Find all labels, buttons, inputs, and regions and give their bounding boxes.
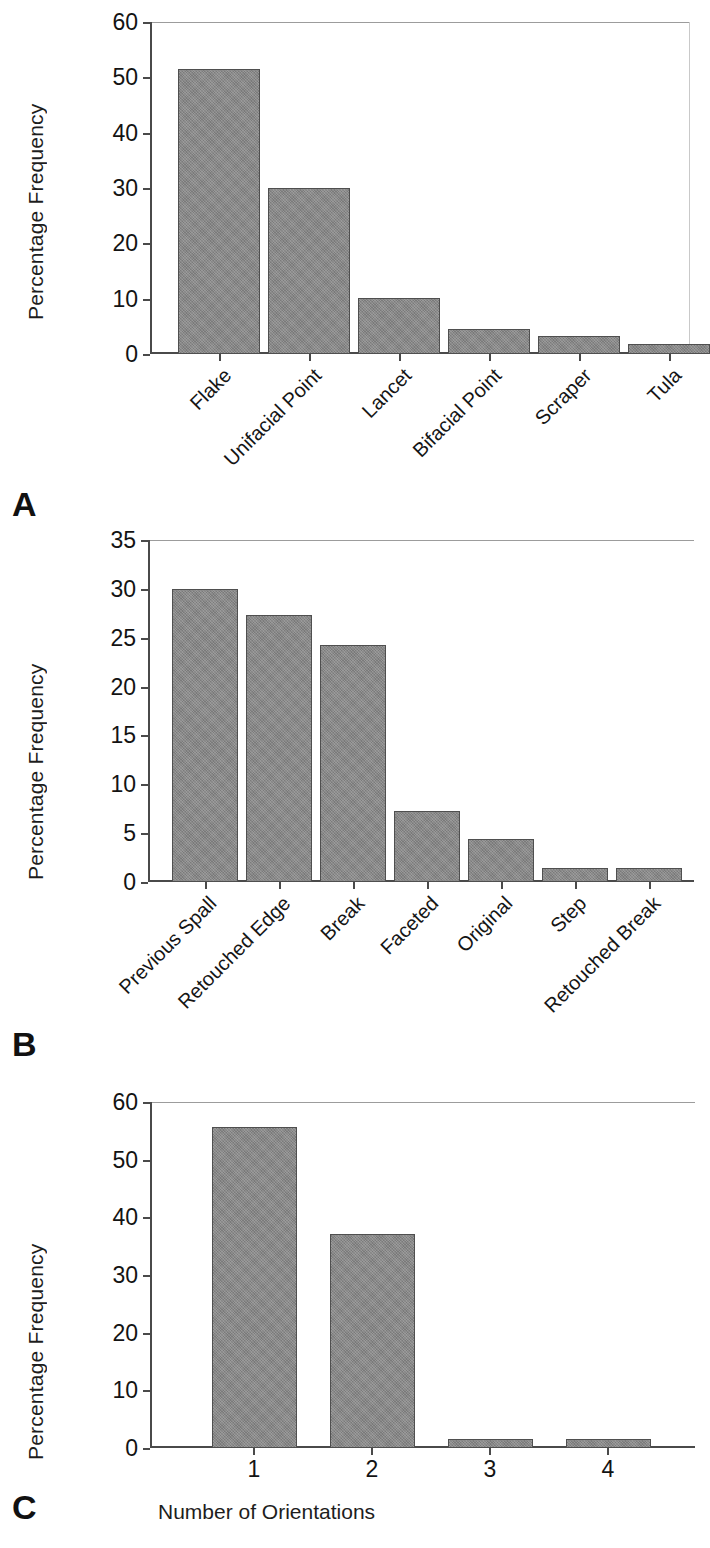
y-tick-label-a-30: 30 (112, 175, 138, 202)
y-tick-label-c-30: 30 (112, 1262, 138, 1289)
bar-a-2 (358, 298, 440, 354)
bar-b-2 (320, 645, 386, 882)
x-tick-b-0 (205, 882, 207, 889)
panel-letter-c: C (12, 1490, 37, 1524)
y-tick-b-35 (141, 540, 148, 542)
panel-a: Percentage Frequency 60 50 40 30 20 10 0 (0, 0, 701, 490)
x-tick-b-6 (649, 882, 651, 889)
bar-b-6 (616, 868, 682, 882)
y-tick-label-b-35: 35 (110, 527, 136, 554)
x-category-label-c-2: 3 (484, 1456, 497, 1483)
panel-letter-b: B (12, 1027, 37, 1061)
panel-b: Percentage Frequency 35 30 25 20 15 10 5… (0, 530, 701, 1060)
y-tick-label-c-0: 0 (125, 1435, 138, 1462)
y-tick-c-0 (143, 1448, 150, 1450)
x-tick-a-3 (489, 354, 491, 361)
bar-c-2 (448, 1439, 533, 1448)
y-tick-a-0 (143, 354, 150, 356)
y-tick-label-a-10: 10 (112, 285, 138, 312)
y-tick-label-b-30: 30 (110, 575, 136, 602)
panel-c: Percentage Frequency 60 50 40 30 20 10 0… (0, 1090, 701, 1548)
y-tick-a-50 (143, 77, 150, 79)
y-tick-a-40 (143, 133, 150, 135)
x-axis-title-c: Number of Orientations (158, 1500, 375, 1524)
y-tick-label-b-10: 10 (110, 771, 136, 798)
y-axis-line-b (148, 540, 150, 882)
bar-c-0 (212, 1127, 297, 1448)
x-tick-b-3 (427, 882, 429, 889)
x-tick-b-4 (501, 882, 503, 889)
x-tick-c-1 (371, 1448, 373, 1455)
y-axis-line-c (150, 1102, 152, 1448)
y-tick-b-30 (141, 589, 148, 591)
x-tick-a-2 (399, 354, 401, 361)
bar-b-3 (394, 811, 460, 882)
y-tick-c-50 (143, 1160, 150, 1162)
y-tick-b-10 (141, 784, 148, 786)
plot-frame-top-b (148, 540, 694, 541)
y-tick-a-60 (143, 22, 150, 24)
y-tick-label-c-10: 10 (112, 1377, 138, 1404)
plot-frame-top-c (150, 1102, 695, 1103)
y-tick-label-c-40: 40 (112, 1204, 138, 1231)
y-tick-c-60 (143, 1102, 150, 1104)
x-tick-a-1 (309, 354, 311, 361)
y-tick-c-10 (143, 1390, 150, 1392)
bar-a-4 (538, 336, 620, 354)
x-tick-a-0 (219, 354, 221, 361)
y-tick-label-a-0: 0 (125, 341, 138, 368)
y-tick-label-a-50: 50 (112, 64, 138, 91)
y-tick-label-b-25: 25 (110, 624, 136, 651)
x-tick-a-4 (579, 354, 581, 361)
y-tick-c-20 (143, 1333, 150, 1335)
bar-a-3 (448, 329, 530, 355)
bar-b-5 (542, 868, 608, 882)
y-tick-b-20 (141, 687, 148, 689)
bar-c-3 (566, 1439, 651, 1448)
y-axis-line-a (150, 22, 152, 354)
x-tick-b-5 (575, 882, 577, 889)
y-tick-a-10 (143, 299, 150, 301)
plot-area-c: 60 50 40 30 20 10 0 (150, 1102, 695, 1448)
y-tick-b-15 (141, 735, 148, 737)
y-tick-label-a-40: 40 (112, 119, 138, 146)
plot-frame-right-a (689, 22, 690, 354)
y-tick-b-0 (141, 882, 148, 884)
y-tick-label-b-5: 5 (123, 820, 136, 847)
y-tick-label-c-50: 50 (112, 1146, 138, 1173)
y-tick-label-b-20: 20 (110, 673, 136, 700)
y-axis-title-b: Percentage Frequency (24, 620, 48, 880)
y-tick-label-a-20: 20 (112, 230, 138, 257)
y-tick-label-c-20: 20 (112, 1319, 138, 1346)
y-tick-label-c-60: 60 (112, 1089, 138, 1116)
y-tick-a-20 (143, 243, 150, 245)
y-tick-label-a-60: 60 (112, 9, 138, 36)
y-tick-a-30 (143, 188, 150, 190)
y-tick-c-30 (143, 1275, 150, 1277)
bar-a-0 (178, 69, 260, 354)
y-tick-label-b-0: 0 (123, 869, 136, 896)
y-tick-c-40 (143, 1217, 150, 1219)
x-tick-c-0 (253, 1448, 255, 1455)
bar-a-1 (268, 188, 350, 354)
x-tick-b-1 (279, 882, 281, 889)
plot-area-a: 60 50 40 30 20 10 0 (150, 22, 690, 354)
y-tick-b-5 (141, 833, 148, 835)
x-tick-c-3 (607, 1448, 609, 1455)
plot-area-b: 35 30 25 20 15 10 5 0 (148, 540, 694, 882)
bar-c-1 (330, 1234, 415, 1449)
y-tick-b-25 (141, 638, 148, 640)
x-tick-a-5 (669, 354, 671, 361)
x-category-label-c-0: 1 (248, 1456, 261, 1483)
bar-b-0 (172, 589, 238, 882)
bar-a-5 (628, 344, 710, 354)
y-axis-title-c: Percentage Frequency (24, 1200, 48, 1460)
y-tick-label-b-15: 15 (110, 722, 136, 749)
y-axis-title-a: Percentage Frequency (24, 60, 48, 320)
plot-frame-top-a (150, 22, 690, 23)
bar-b-1 (246, 615, 312, 882)
panel-letter-a: A (12, 487, 37, 521)
x-category-label-c-3: 4 (602, 1456, 615, 1483)
bar-b-4 (468, 839, 534, 882)
x-tick-c-2 (489, 1448, 491, 1455)
